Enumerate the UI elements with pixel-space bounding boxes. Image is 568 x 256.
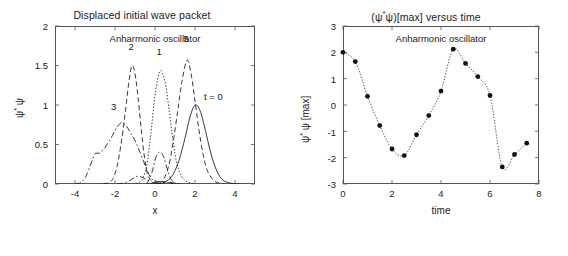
panel-right-max-vs-time: (ψ*ψ)[max] versus time Anharmonic oscill… — [284, 0, 568, 256]
left-curve-label-t-0: t = 0 — [204, 91, 223, 102]
panel-left-wave-packet: Displaced initial wave packet Anharmonic… — [0, 0, 284, 256]
figure-two-panel: Displaced initial wave packet Anharmonic… — [0, 0, 568, 256]
left-curve-label-3: 3 — [111, 101, 116, 112]
left-plot-svg — [0, 0, 284, 256]
left-curve-label-5: 5 — [184, 33, 189, 44]
right-plot-svg — [284, 0, 568, 256]
left-curve-label-2: 2 — [128, 41, 133, 52]
left-curve-label-1: 1 — [156, 46, 161, 57]
